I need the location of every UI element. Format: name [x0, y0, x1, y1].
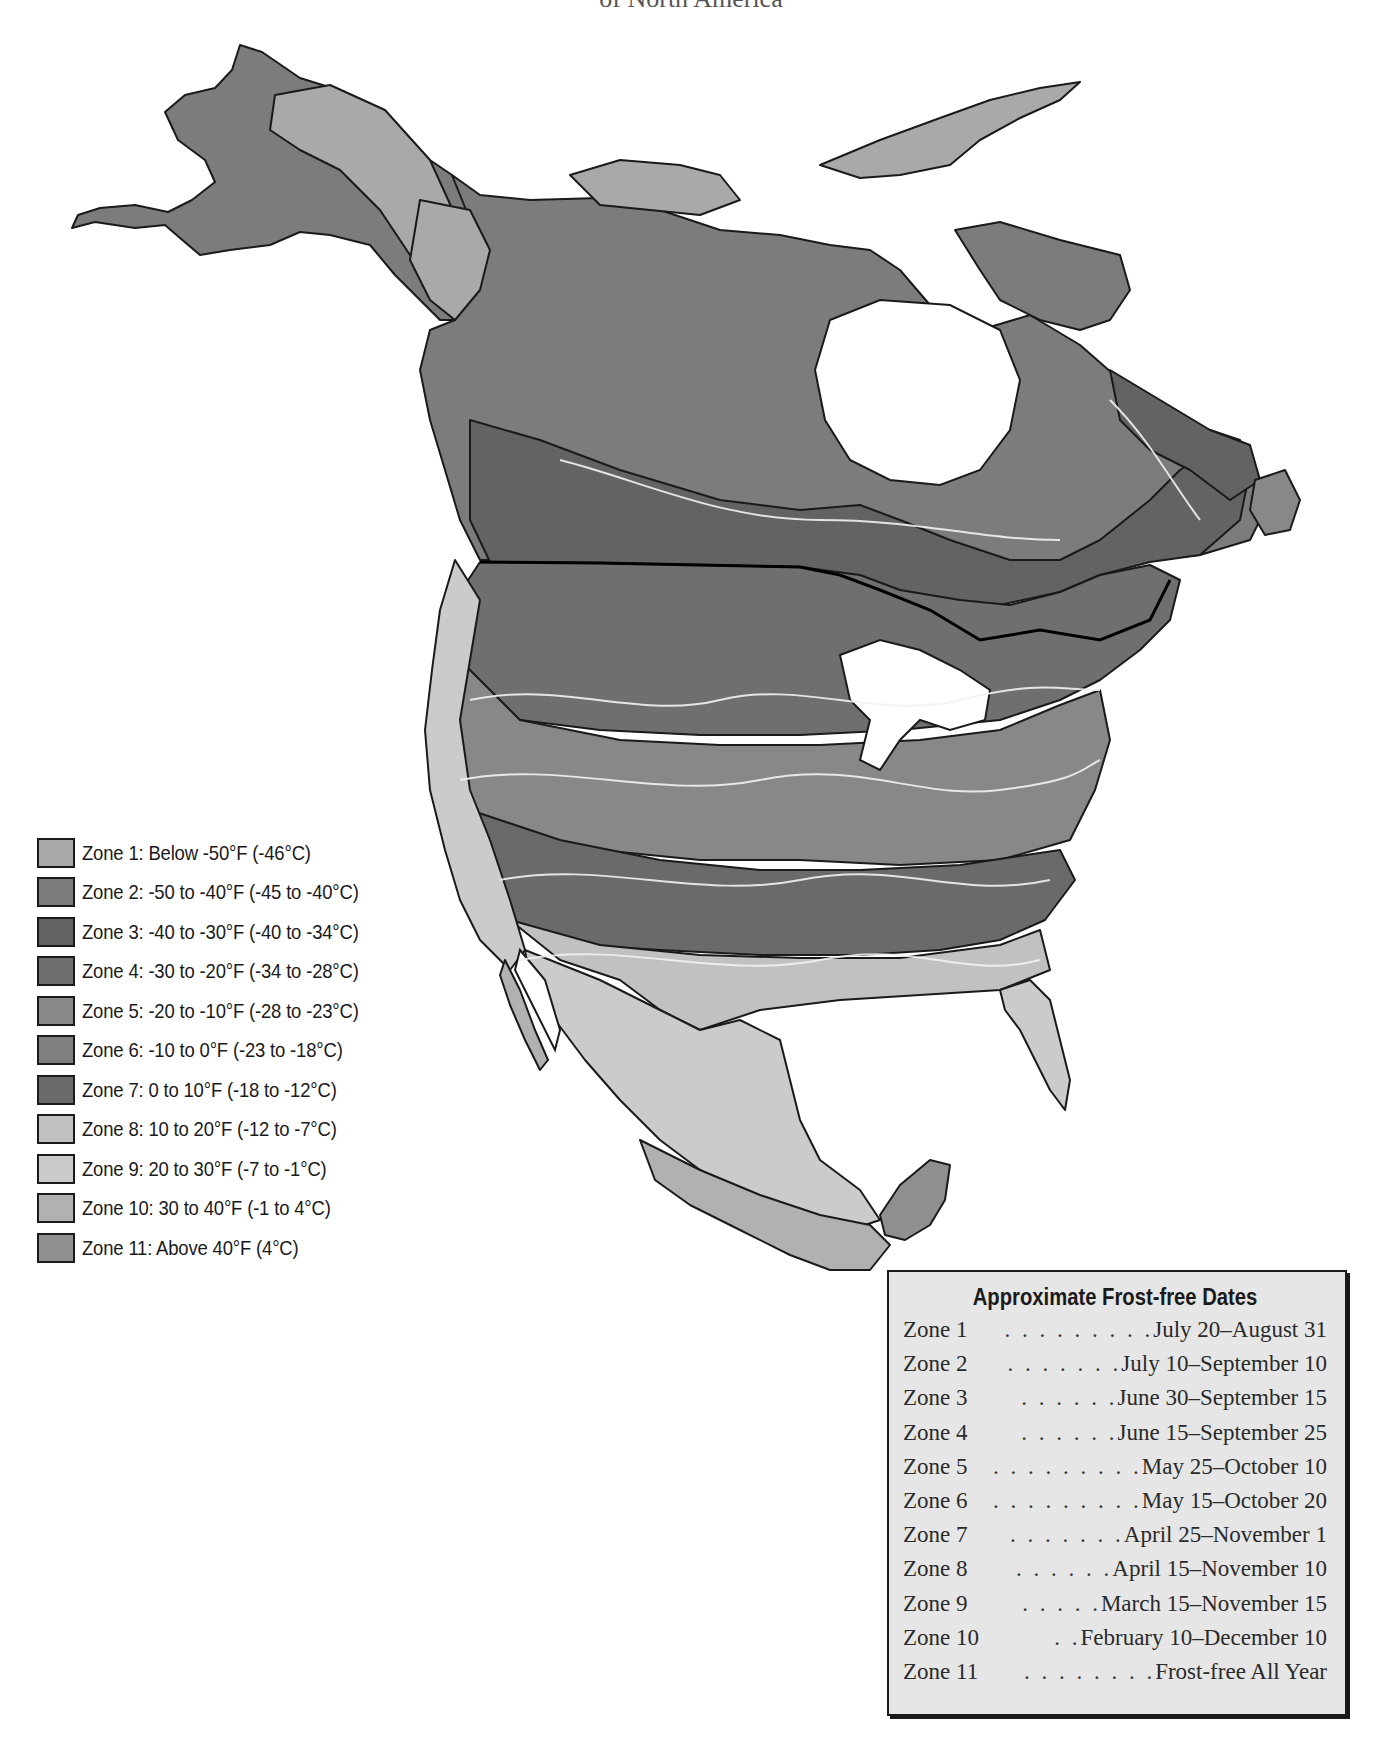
legend-label: Zone 10: 30 to 40°F (-1 to 4°C) — [82, 1196, 331, 1220]
frost-row: Zone 8. . . . . .April 15–November 10 — [903, 1556, 1327, 1590]
leader-dots: . . — [979, 1625, 1080, 1651]
frost-zone: Zone 11 — [903, 1659, 978, 1685]
frost-dates: July 10–September 10 — [1121, 1351, 1327, 1377]
swatch-zone-6 — [37, 1035, 75, 1065]
frost-dates: May 15–October 20 — [1142, 1488, 1327, 1514]
frost-row: Zone 3. . . . . .June 30–September 15 — [903, 1385, 1327, 1419]
legend-item-zone-1: Zone 1: Below -50°F (-46°C) — [37, 833, 396, 873]
swatch-zone-1 — [37, 838, 75, 868]
legend-item-zone-11: Zone 11: Above 40°F (4°C) — [37, 1228, 396, 1268]
frost-row: Zone 6. . . . . . . . .May 15–October 20 — [903, 1488, 1327, 1522]
frost-zone: Zone 3 — [903, 1385, 968, 1411]
frost-dates: February 10–December 10 — [1080, 1625, 1327, 1651]
leader-dots: . . . . . . . . . — [968, 1488, 1142, 1514]
legend-label: Zone 5: -20 to -10°F (-28 to -23°C) — [82, 999, 359, 1023]
region-florida — [1000, 980, 1070, 1110]
leader-dots: . . . . . . . . — [978, 1659, 1155, 1685]
leader-dots: . . . . . . — [968, 1420, 1118, 1446]
legend-item-zone-7: Zone 7: 0 to 10°F (-18 to -12°C) — [37, 1070, 396, 1110]
frost-dates: April 25–November 1 — [1124, 1522, 1327, 1548]
leader-dots: . . . . . . . . . — [968, 1317, 1154, 1343]
legend-item-zone-5: Zone 5: -20 to -10°F (-28 to -23°C) — [37, 991, 396, 1031]
swatch-zone-3 — [37, 917, 75, 947]
zone-legend: Zone 1: Below -50°F (-46°C) Zone 2: -50 … — [37, 833, 396, 1268]
swatch-zone-8 — [37, 1114, 75, 1144]
frost-zone: Zone 8 — [903, 1556, 968, 1582]
swatch-zone-5 — [37, 996, 75, 1026]
legend-label: Zone 1: Below -50°F (-46°C) — [82, 841, 311, 865]
region-baffin — [955, 222, 1130, 330]
frost-zone: Zone 7 — [903, 1522, 968, 1548]
legend-item-zone-8: Zone 8: 10 to 20°F (-12 to -7°C) — [37, 1110, 396, 1150]
frost-zone: Zone 4 — [903, 1420, 968, 1446]
legend-item-zone-9: Zone 9: 20 to 30°F (-7 to -1°C) — [37, 1149, 396, 1189]
leader-dots: . . . . . . — [968, 1556, 1113, 1582]
frost-row: Zone 7. . . . . . .April 25–November 1 — [903, 1522, 1327, 1556]
legend-label: Zone 3: -40 to -30°F (-40 to -34°C) — [82, 920, 359, 944]
leader-dots: . . . . . — [968, 1591, 1101, 1617]
legend-label: Zone 6: -10 to 0°F (-23 to -18°C) — [82, 1038, 343, 1062]
frost-dates: May 25–October 10 — [1142, 1454, 1327, 1480]
legend-label: Zone 2: -50 to -40°F (-45 to -40°C) — [82, 880, 359, 904]
frost-zone: Zone 1 — [903, 1317, 968, 1343]
legend-label: Zone 9: 20 to 30°F (-7 to -1°C) — [82, 1157, 327, 1181]
legend-item-zone-10: Zone 10: 30 to 40°F (-1 to 4°C) — [37, 1189, 396, 1229]
frost-free-dates-table: Approximate Frost-free Dates Zone 1. . .… — [887, 1270, 1347, 1716]
frost-zone: Zone 10 — [903, 1625, 979, 1651]
legend-label: Zone 8: 10 to 20°F (-12 to -7°C) — [82, 1117, 337, 1141]
frost-zone: Zone 9 — [903, 1591, 968, 1617]
legend-label: Zone 11: Above 40°F (4°C) — [82, 1236, 299, 1260]
swatch-zone-9 — [37, 1154, 75, 1184]
frost-zone: Zone 5 — [903, 1454, 968, 1480]
leader-dots: . . . . . . — [968, 1385, 1118, 1411]
legend-item-zone-2: Zone 2: -50 to -40°F (-45 to -40°C) — [37, 873, 396, 913]
swatch-zone-7 — [37, 1075, 75, 1105]
frost-dates: March 15–November 15 — [1101, 1591, 1327, 1617]
frost-dates: June 30–September 15 — [1117, 1385, 1327, 1411]
frost-dates: Frost-free All Year — [1155, 1659, 1327, 1685]
legend-label: Zone 4: -30 to -20°F (-34 to -28°C) — [82, 959, 359, 983]
frost-row: Zone 5. . . . . . . . .May 25–October 10 — [903, 1454, 1327, 1488]
legend-item-zone-6: Zone 6: -10 to 0°F (-23 to -18°C) — [37, 1031, 396, 1071]
frost-dates: June 15–September 25 — [1117, 1420, 1327, 1446]
frost-row: Zone 1. . . . . . . . .July 20–August 31 — [903, 1317, 1327, 1351]
swatch-zone-4 — [37, 956, 75, 986]
leader-dots: . . . . . . . — [968, 1522, 1124, 1548]
frost-free-title: Approximate Frost-free Dates — [928, 1284, 1301, 1311]
legend-label: Zone 7: 0 to 10°F (-18 to -12°C) — [82, 1078, 337, 1102]
frost-row: Zone 9. . . . .March 15–November 15 — [903, 1591, 1327, 1625]
frost-zone: Zone 2 — [903, 1351, 968, 1377]
swatch-zone-11 — [37, 1233, 75, 1263]
swatch-zone-10 — [37, 1193, 75, 1223]
frost-dates: July 20–August 31 — [1153, 1317, 1327, 1343]
legend-item-zone-3: Zone 3: -40 to -30°F (-40 to -34°C) — [37, 912, 396, 952]
region-arctic-islands-2 — [820, 82, 1080, 178]
legend-item-zone-4: Zone 4: -30 to -20°F (-34 to -28°C) — [37, 952, 396, 992]
frost-dates: April 15–November 10 — [1112, 1556, 1327, 1582]
frost-row: Zone 11. . . . . . . .Frost-free All Yea… — [903, 1659, 1327, 1693]
swatch-zone-2 — [37, 877, 75, 907]
frost-row: Zone 2. . . . . . .July 10–September 10 — [903, 1351, 1327, 1385]
region-yucatan — [880, 1160, 950, 1240]
leader-dots: . . . . . . . — [968, 1351, 1122, 1377]
leader-dots: . . . . . . . . . — [968, 1454, 1142, 1480]
frost-row: Zone 4. . . . . .June 15–September 25 — [903, 1420, 1327, 1454]
frost-row: Zone 10. .February 10–December 10 — [903, 1625, 1327, 1659]
frost-zone: Zone 6 — [903, 1488, 968, 1514]
